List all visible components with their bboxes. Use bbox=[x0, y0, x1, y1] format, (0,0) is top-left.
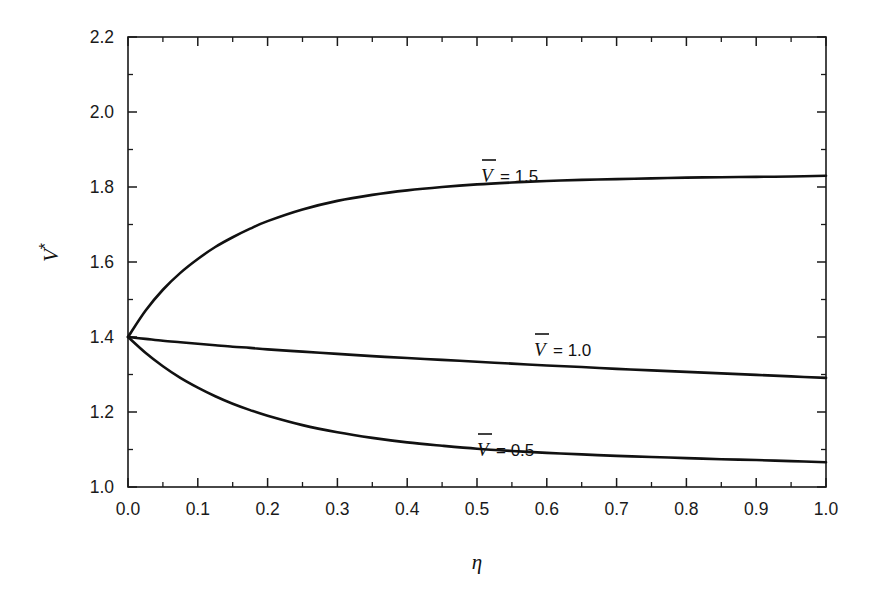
y-tick-label: 1.6 bbox=[90, 252, 114, 272]
x-tick-label: 0.3 bbox=[325, 499, 349, 519]
chart-figure: 0.00.10.20.30.40.50.60.70.80.91.0 1.01.2… bbox=[0, 0, 876, 602]
y-tick-label: 1.0 bbox=[90, 477, 115, 497]
line-chart-plot: 0.00.10.20.30.40.50.60.70.80.91.0 1.01.2… bbox=[0, 0, 876, 602]
y-tick-label: 2.0 bbox=[90, 102, 115, 122]
x-tick-label: 0.0 bbox=[116, 499, 141, 519]
x-tick-label: 0.6 bbox=[535, 499, 559, 519]
x-tick-label: 0.5 bbox=[465, 499, 489, 519]
x-tick-label: 0.1 bbox=[186, 499, 210, 519]
x-axis-title: η bbox=[472, 550, 482, 574]
y-tick-label: 1.2 bbox=[90, 402, 114, 422]
x-tick-label: 0.9 bbox=[744, 499, 768, 519]
x-tick-label: 0.7 bbox=[604, 499, 628, 519]
curve-label-top-value: = 1.5 bbox=[500, 167, 538, 186]
curve-label-bottom-value: = 0.5 bbox=[496, 441, 534, 460]
y-tick-label: 2.2 bbox=[90, 27, 114, 47]
x-tick-label: 0.2 bbox=[255, 499, 279, 519]
x-tick-label: 1.0 bbox=[814, 499, 839, 519]
y-axis-title-superscript: * bbox=[37, 243, 54, 249]
x-tick-label: 0.8 bbox=[674, 499, 698, 519]
y-tick-label: 1.8 bbox=[90, 177, 114, 197]
x-tick-label: 0.4 bbox=[395, 499, 420, 519]
y-tick-label: 1.4 bbox=[90, 327, 115, 347]
curve-label-middle-value: = 1.0 bbox=[553, 341, 591, 360]
